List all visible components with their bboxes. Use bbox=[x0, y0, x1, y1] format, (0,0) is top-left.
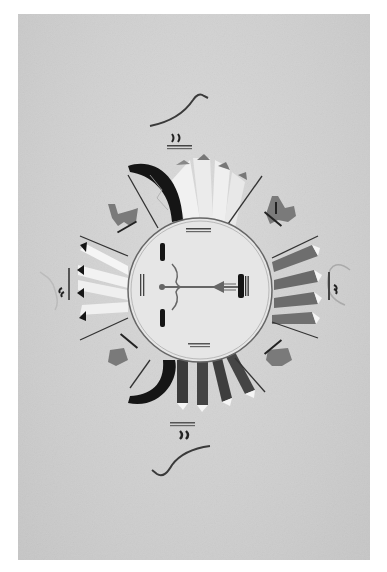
sandpainting-artwork bbox=[18, 14, 370, 560]
sandpainting-photo: Black and white photograph of a sandpain… bbox=[18, 14, 370, 560]
sun-disk bbox=[128, 218, 272, 362]
